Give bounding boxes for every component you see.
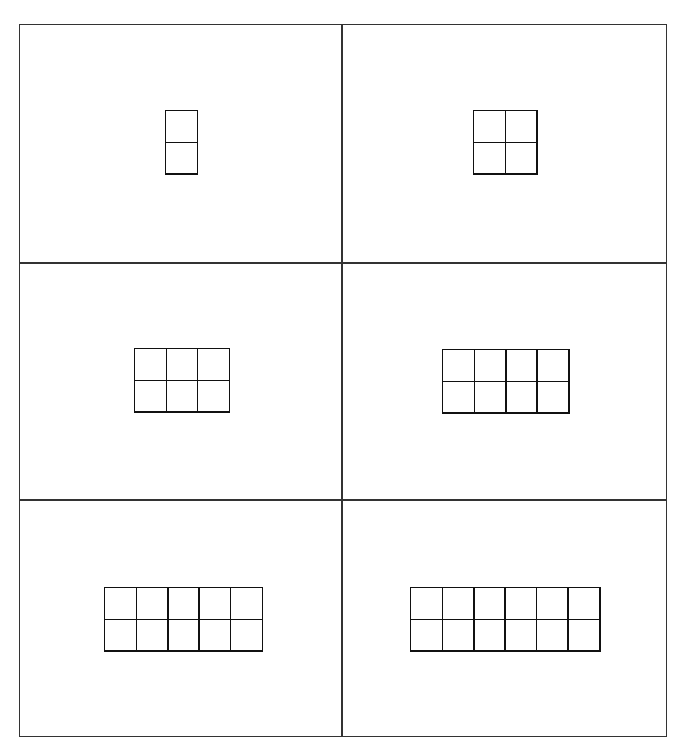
array-cell xyxy=(474,381,507,414)
array-cell xyxy=(567,587,600,620)
array-cell xyxy=(473,142,506,175)
array-cell xyxy=(230,619,263,652)
array-cell xyxy=(166,380,199,413)
array-cell xyxy=(474,349,507,382)
array-2x2 xyxy=(473,110,538,175)
array-cell xyxy=(536,587,569,620)
array-cell xyxy=(536,381,569,414)
array-cell xyxy=(536,349,569,382)
array-cell xyxy=(473,110,506,143)
array-cell xyxy=(104,619,137,652)
array-cell xyxy=(442,381,475,414)
array-4x2 xyxy=(442,349,570,414)
array-cell xyxy=(104,587,137,620)
array-3x2 xyxy=(134,348,230,413)
array-cell xyxy=(165,110,198,143)
array-1x2 xyxy=(165,110,198,175)
array-cell xyxy=(505,381,538,414)
array-cell xyxy=(504,587,537,620)
array-cell xyxy=(410,619,443,652)
array-5x2 xyxy=(104,587,263,652)
array-cell xyxy=(167,619,200,652)
array-cell xyxy=(166,348,199,381)
array-cell xyxy=(536,619,569,652)
array-cell xyxy=(134,380,167,413)
array-cell xyxy=(442,619,475,652)
array-cell xyxy=(167,587,200,620)
array-cell xyxy=(197,380,230,413)
column-divider xyxy=(341,24,343,737)
array-cell xyxy=(473,587,506,620)
array-cell xyxy=(230,587,263,620)
array-cell xyxy=(505,349,538,382)
array-cell xyxy=(442,587,475,620)
array-cell xyxy=(410,587,443,620)
array-cell xyxy=(165,142,198,175)
row-divider-1 xyxy=(19,262,667,264)
array-cell xyxy=(504,619,537,652)
array-cell xyxy=(505,110,538,143)
array-cell xyxy=(567,619,600,652)
array-cell xyxy=(198,587,231,620)
array-cell xyxy=(136,587,169,620)
array-cell xyxy=(505,142,538,175)
array-cell xyxy=(134,348,167,381)
array-cell xyxy=(473,619,506,652)
array-cell xyxy=(442,349,475,382)
array-cell xyxy=(197,348,230,381)
row-divider-2 xyxy=(19,499,667,501)
array-cell xyxy=(198,619,231,652)
array-6x2 xyxy=(410,587,601,652)
array-cell xyxy=(136,619,169,652)
